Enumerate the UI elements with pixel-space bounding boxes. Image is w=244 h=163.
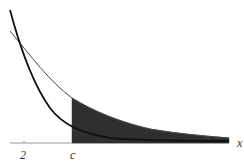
integral-comparison-diagram: 2 c x <box>0 0 244 163</box>
tick-label-c: c <box>70 148 76 162</box>
tick-label-2: 2 <box>20 148 26 162</box>
axis-label-x: x <box>236 136 243 150</box>
